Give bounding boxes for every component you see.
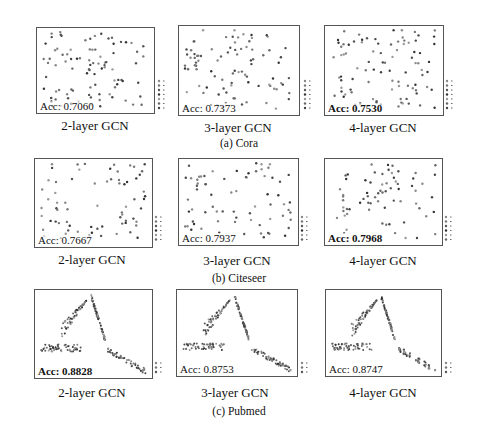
scatter-plot: Acc: 0.7373 [178, 25, 300, 116]
caption-pubmed: (c) Pubmed [0, 405, 478, 417]
legend [300, 361, 310, 377]
caption-citeseer: (b) Citeseer [0, 272, 478, 284]
legend [154, 361, 164, 377]
accuracy-label: Acc: 0.7937 [182, 233, 236, 244]
plot-title: 2-layer GCN [22, 252, 162, 268]
legend [444, 215, 454, 244]
plot-title: 3-layer GCN [167, 253, 307, 269]
scatter-plot: Acc: 0.7667 [34, 158, 153, 248]
plot-title: 3-layer GCN [168, 120, 308, 136]
accuracy-label: Acc: 0.7373 [182, 103, 236, 114]
plot-title: 4-layer GCN [313, 385, 453, 401]
legend [303, 79, 313, 113]
scatter-plot: Acc: 0.8753 [176, 289, 298, 377]
plot-title: 3-layer GCN [165, 385, 305, 401]
caption-cora: (a) Cora [0, 137, 478, 149]
accuracy-label: Acc: 0.8828 [38, 366, 92, 377]
accuracy-label: Acc: 0.8747 [329, 364, 383, 375]
legend [154, 215, 164, 244]
plot-title: 4-layer GCN [313, 253, 453, 269]
plot-title: 2-layer GCN [25, 118, 165, 134]
scatter-plot: Acc: 0.7060 [36, 27, 155, 114]
legend [300, 215, 310, 244]
scatter-plot: Acc: 0.8828 [34, 289, 153, 379]
accuracy-label: Acc: 0.7667 [38, 235, 92, 246]
legend [445, 79, 455, 113]
plot-title: 4-layer GCN [313, 120, 453, 136]
legend [157, 79, 167, 113]
accuracy-label: Acc: 0.7968 [328, 233, 382, 244]
accuracy-label: Acc: 0.8753 [180, 364, 234, 375]
legend [444, 361, 454, 377]
scatter-plot: Acc: 0.8747 [325, 289, 442, 377]
accuracy-label: Acc: 0.7530 [328, 103, 382, 114]
accuracy-label: Acc: 0.7060 [40, 101, 94, 112]
plot-title: 2-layer GCN [22, 385, 162, 401]
scatter-plot: Acc: 0.7530 [324, 25, 444, 116]
scatter-plot: Acc: 0.7968 [324, 158, 443, 246]
scatter-plot: Acc: 0.7937 [178, 158, 299, 246]
